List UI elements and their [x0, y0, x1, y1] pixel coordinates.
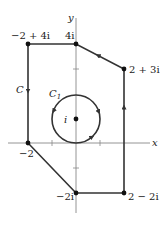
vertex-label: −2 + 4i — [11, 30, 50, 41]
vertex-point — [122, 191, 127, 196]
vertex-label: 2 + 3i — [129, 64, 160, 75]
center-point — [74, 117, 79, 122]
contour-c: −2 + 4i 4i 2 + 3i 2 − 2i −2i −2 C — [11, 30, 160, 202]
contour-c-label: C — [16, 84, 24, 95]
vertex-point — [26, 42, 31, 47]
circle-c1-label: C1 — [49, 88, 61, 101]
vertex-label: 2 − 2i — [128, 191, 159, 202]
vertex-point — [74, 191, 79, 196]
c1-subscript: 1 — [57, 93, 61, 101]
contour-diagram: x y −2 + 4i 4i 2 + 3i 2 − 2i −2i −2 C i … — [0, 0, 166, 226]
vertex-point — [74, 42, 79, 47]
vertex-label: −2i — [56, 191, 74, 202]
y-axis-label: y — [67, 12, 74, 23]
vertex-label: −2 — [19, 148, 34, 159]
center-label: i — [64, 114, 67, 125]
circle-c1: i C1 — [49, 88, 100, 143]
vertex-point — [122, 67, 127, 72]
axes: x y — [8, 12, 158, 213]
vertex-point — [26, 141, 31, 146]
vertex-label: 4i — [65, 30, 75, 41]
x-axis-label: x — [152, 137, 158, 148]
